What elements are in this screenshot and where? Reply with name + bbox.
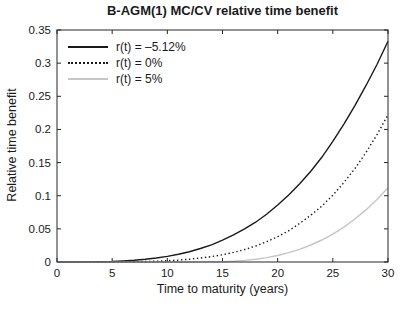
- legend-item-2: r(t) = 0%: [68, 55, 186, 71]
- y-tick-label: 0.05: [29, 223, 51, 235]
- y-tick-label: 0.3: [35, 57, 51, 69]
- legend-label-2: r(t) = 0%: [116, 55, 162, 71]
- x-tick-label: 30: [382, 267, 395, 279]
- legend-item-1: r(t) = –5.12%: [68, 39, 186, 55]
- y-tick-label: 0.2: [35, 123, 51, 135]
- y-axis-label: Relative time benefit: [5, 45, 19, 245]
- y-tick-label: 0.25: [29, 90, 51, 102]
- legend: r(t) = –5.12% r(t) = 0% r(t) = 5%: [68, 39, 186, 87]
- legend-line-solid-gray: [68, 78, 108, 80]
- y-tick-label: 0.15: [29, 157, 51, 169]
- legend-label-3: r(t) = 5%: [116, 71, 162, 87]
- legend-label-1: r(t) = –5.12%: [116, 39, 186, 55]
- legend-line-dotted-black: [68, 62, 108, 64]
- x-tick-label: 5: [109, 267, 115, 279]
- y-tick-label: 0.1: [35, 190, 51, 202]
- x-tick-label: 20: [271, 267, 284, 279]
- x-axis-label: Time to maturity (years): [57, 282, 388, 296]
- x-tick-label: 0: [54, 267, 60, 279]
- series-line-3: [57, 188, 388, 262]
- legend-line-solid-black: [68, 46, 108, 48]
- x-tick-label: 10: [161, 267, 174, 279]
- x-tick-label: 25: [326, 267, 339, 279]
- legend-item-3: r(t) = 5%: [68, 71, 186, 87]
- y-tick-label: 0: [45, 256, 51, 268]
- plot-area: 05101520253000.050.10.150.20.250.30.35: [0, 0, 403, 311]
- x-tick-label: 15: [216, 267, 229, 279]
- chart-figure: B-AGM(1) MC/CV relative time benefit 051…: [0, 0, 403, 311]
- y-tick-label: 0.35: [29, 24, 51, 36]
